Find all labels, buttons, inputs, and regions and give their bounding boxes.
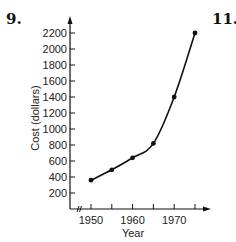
y-tick-label: 800 xyxy=(49,139,67,151)
y-tick-label: 2000 xyxy=(43,43,67,55)
y-tick-label: 1400 xyxy=(43,91,67,103)
y-tick-label: 400 xyxy=(49,171,67,183)
cost-curve xyxy=(91,33,195,180)
data-point xyxy=(172,95,177,100)
y-tick-label: 1200 xyxy=(43,107,67,119)
axes xyxy=(68,16,212,212)
y-axis-title: Cost (dollars) xyxy=(29,85,41,150)
data-point xyxy=(109,167,114,172)
y-tick-label: 200 xyxy=(49,187,67,199)
x-tick-label: 1960 xyxy=(120,214,144,226)
y-tick-label: 1000 xyxy=(43,123,67,135)
data-point xyxy=(130,155,135,160)
data-point xyxy=(193,31,198,36)
x-axis-title: Year xyxy=(122,227,145,239)
y-tick-label: 1600 xyxy=(43,75,67,87)
cost-vs-year-chart: 2004006008001000120014001600180020002200… xyxy=(0,0,236,242)
y-tick-label: 600 xyxy=(49,155,67,167)
x-tick-label: 1970 xyxy=(162,214,186,226)
x-axis-arrow-icon xyxy=(203,207,211,212)
data-points xyxy=(89,31,198,183)
data-point xyxy=(89,178,94,183)
x-tick-label: 1950 xyxy=(79,214,103,226)
y-axis-arrow-icon xyxy=(68,16,73,24)
x-axis-ticks: 195019601970 xyxy=(79,204,195,226)
y-tick-label: 1800 xyxy=(43,59,67,71)
y-tick-label: 2200 xyxy=(43,27,67,39)
data-point xyxy=(151,141,156,146)
